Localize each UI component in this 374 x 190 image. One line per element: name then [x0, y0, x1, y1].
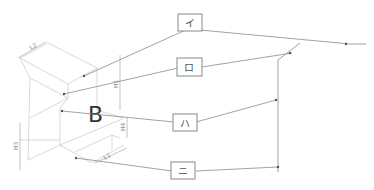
callout-ha-label: ハ	[180, 118, 190, 129]
dim-right-height: H1	[112, 79, 119, 88]
leader-lines	[61, 28, 366, 172]
dim-left-height: H3	[12, 141, 19, 150]
callout-ni-label: ニ	[178, 166, 188, 177]
callout-ha: ハ	[173, 114, 197, 131]
callout-ro-label: ロ	[184, 62, 194, 73]
isometric-drawing: L2 H1 H3 H4 L1 B イ	[0, 0, 374, 190]
callout-ni: ニ	[171, 162, 195, 179]
dim-step-height: H4	[119, 122, 126, 131]
callout-i: イ	[178, 14, 202, 31]
callout-ro: ロ	[177, 58, 202, 76]
callout-i-label: イ	[185, 18, 195, 29]
block-outline	[20, 43, 124, 163]
